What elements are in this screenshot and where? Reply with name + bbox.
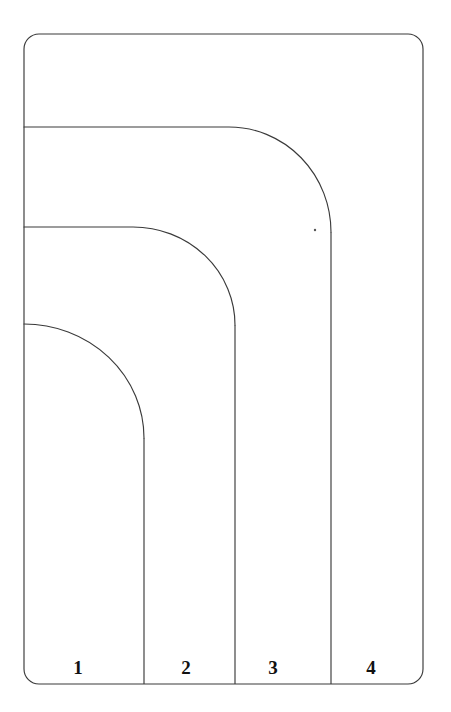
nested-zone-diagram: 1 2 3 4	[0, 0, 451, 712]
zone-label-1: 1	[73, 657, 83, 678]
ink-speck	[314, 229, 316, 231]
diagram-canvas: 1 2 3 4	[0, 0, 451, 712]
zone-label-4: 4	[366, 657, 376, 678]
zone-2-curve-path	[24, 227, 235, 325]
outer-boundary-path	[24, 34, 423, 684]
zone-3-curve-path	[24, 127, 331, 232]
zone-label-2: 2	[181, 657, 191, 678]
zone-1-curve-path	[24, 324, 144, 438]
zone-label-3: 3	[268, 657, 278, 678]
